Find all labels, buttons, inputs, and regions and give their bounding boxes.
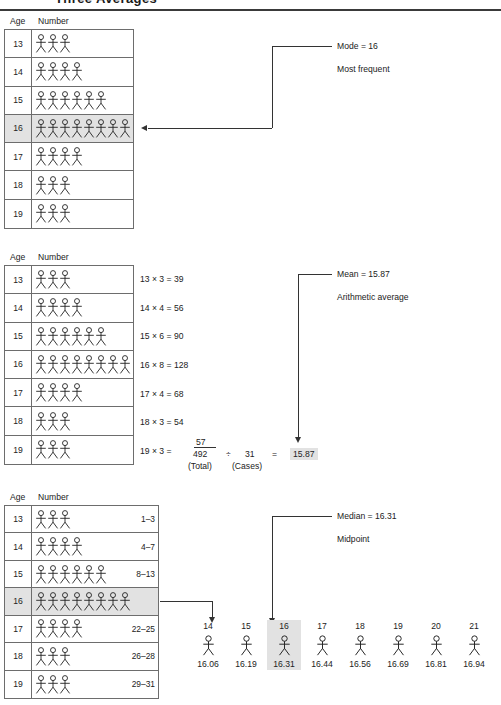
row-age-value: 16 — [5, 351, 32, 378]
row-number-cell: 1–3 — [32, 506, 158, 532]
scale-figure — [419, 632, 453, 658]
table-row: 18 — [5, 407, 133, 435]
row-number-cell: 22–25 — [32, 616, 158, 642]
mean-divide-sign: ÷ — [226, 449, 231, 459]
scale-rank-label: 17 — [305, 620, 339, 632]
stick-figure-icon — [119, 592, 131, 611]
stick-figure-icon — [71, 565, 83, 584]
stick-figure-icon — [47, 62, 59, 81]
stick-figure-icon — [47, 119, 59, 138]
table-row: 1826–28 — [5, 643, 158, 670]
scale-figure — [381, 632, 415, 658]
stick-figure-icon — [59, 440, 71, 459]
row-age-value: 13 — [5, 30, 32, 57]
row-age-value: 19 — [5, 671, 32, 698]
figure-group — [35, 270, 71, 289]
table-row: 15 — [5, 323, 133, 351]
caption-number-3: Number — [38, 492, 69, 502]
stick-figure-icon — [59, 298, 71, 317]
scale-column: 1616.31 — [267, 620, 301, 670]
table-row: 15 — [5, 87, 133, 115]
stick-figure-icon — [47, 355, 59, 374]
row-number-cell — [32, 143, 133, 170]
scale-column: 2016.81 — [419, 620, 453, 670]
row-age-value: 18 — [5, 643, 32, 669]
median-annotation-sub: Midpoint — [337, 534, 369, 544]
figure-group — [35, 440, 71, 459]
row-age-value: 14 — [5, 294, 32, 321]
mode-table: 13141516171819 — [4, 29, 134, 229]
scale-column: 1716.44 — [305, 620, 339, 670]
table-row: 17 — [5, 143, 133, 171]
scale-column: 2116.94 — [457, 620, 491, 670]
stick-figure-icon — [47, 298, 59, 317]
stick-figure-icon — [47, 440, 59, 459]
scale-value-label: 16.81 — [419, 658, 453, 670]
page-root: Three Averages Age Number 13141516171819… — [0, 0, 501, 705]
stick-figure-icon — [35, 675, 47, 694]
scale-column: 1816.56 — [343, 620, 377, 670]
stick-figure-icon — [83, 91, 95, 110]
stick-figure-icon — [430, 635, 443, 656]
header-rule — [0, 9, 501, 11]
row-rank-range: 8–13 — [136, 569, 155, 579]
row-number-cell — [32, 588, 158, 614]
stick-figure-icon — [59, 62, 71, 81]
figure-group — [35, 412, 71, 431]
stick-figure-icon — [35, 537, 47, 556]
stick-figure-icon — [47, 270, 59, 289]
figure-group — [35, 647, 71, 666]
row-age-value: 16 — [5, 115, 32, 142]
stick-figure-icon — [71, 355, 83, 374]
figure-group — [35, 119, 131, 138]
stick-figure-icon — [83, 327, 95, 346]
row-age-value: 16 — [5, 588, 32, 614]
stick-figure-icon — [59, 355, 71, 374]
table-row: 144–7 — [5, 533, 158, 560]
table-row: 131–3 — [5, 506, 158, 533]
stick-figure-icon — [71, 383, 83, 402]
median-table: 131–3144–7158–13161722–251826–281929–31 — [4, 505, 159, 699]
mode-arrowhead — [141, 125, 147, 131]
stick-figure-icon — [59, 327, 71, 346]
stick-figure-icon — [35, 176, 47, 195]
stick-figure-icon — [47, 647, 59, 666]
stick-figure-icon — [316, 635, 329, 656]
stick-figure-icon — [107, 592, 119, 611]
row-number-cell — [32, 30, 133, 57]
scale-figure — [305, 632, 339, 658]
median-connector-horizontal-top — [272, 516, 332, 517]
scale-rank-label: 19 — [381, 620, 415, 632]
caption-number-1: Number — [38, 16, 69, 26]
mode-connector-vertical — [272, 46, 273, 128]
row-number-cell — [32, 323, 133, 350]
figure-group — [35, 355, 131, 374]
stick-figure-icon — [278, 635, 291, 656]
figure-group — [35, 565, 107, 584]
row-number-cell: 8–13 — [32, 561, 158, 587]
table-row: 19 — [5, 200, 133, 228]
table-row: 13 — [5, 30, 133, 58]
stick-figure-icon — [59, 592, 71, 611]
mean-row-calculation: 15 × 6 = 90 — [140, 331, 184, 341]
row-age-value: 17 — [5, 616, 32, 642]
stick-figure-icon — [59, 619, 71, 638]
stick-figure-icon — [47, 176, 59, 195]
stick-figure-icon — [71, 537, 83, 556]
table-row: 17 — [5, 379, 133, 407]
row-number-cell: 29–31 — [32, 671, 158, 698]
mean-result-value: 15.87 — [290, 448, 318, 460]
mean-cases-label: (Cases) — [232, 461, 262, 471]
mode-annotation-sub: Most frequent — [337, 64, 390, 74]
stick-figure-icon — [59, 510, 71, 529]
stick-figure-icon — [35, 327, 47, 346]
stick-figure-icon — [35, 565, 47, 584]
stick-figure-icon — [468, 635, 481, 656]
row-number-cell — [32, 200, 133, 228]
row-number-cell — [32, 58, 133, 85]
scale-figure — [191, 632, 225, 658]
scale-column: 1916.69 — [381, 620, 415, 670]
stick-figure-icon — [47, 565, 59, 584]
mean-row-calculation: 19 × 3 = — [140, 446, 172, 456]
stick-figure-icon — [95, 565, 107, 584]
